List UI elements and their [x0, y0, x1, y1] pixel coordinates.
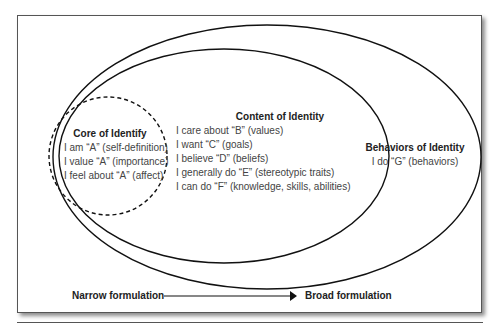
content-item: I can do “F” (knowledge, skills, abiliti… — [176, 180, 351, 194]
core-item: I value “A” (importance) — [64, 155, 168, 169]
core-section: Core of Identify — [60, 127, 160, 141]
behaviors-section: Behaviors of Identity I do “G” (behavior… — [362, 141, 468, 169]
content-item: I believe “D” (beliefs) — [176, 152, 351, 166]
content-item: I care about “B” (values) — [176, 124, 351, 138]
narrow-formulation-label: Narrow formulation — [72, 290, 164, 301]
behaviors-title: Behaviors of Identity — [362, 141, 468, 155]
broad-formulation-label: Broad formulation — [305, 290, 392, 301]
content-item: I generally do “E” (stereotypic traits) — [176, 166, 351, 180]
content-section: Content of Identity — [205, 110, 355, 124]
core-item: I feel about “A” (affect) — [64, 169, 168, 183]
behaviors-item: I do “G” (behaviors) — [362, 155, 468, 169]
core-items: I am “A” (self-definition) I value “A” (… — [64, 141, 168, 183]
core-title: Core of Identify — [60, 127, 160, 141]
content-title: Content of Identity — [205, 110, 355, 124]
content-items: I care about “B” (values) I want “C” (go… — [176, 124, 351, 194]
content-item: I want “C” (goals) — [176, 138, 351, 152]
core-item: I am “A” (self-definition) — [64, 141, 168, 155]
arrow-head-icon — [290, 291, 297, 301]
